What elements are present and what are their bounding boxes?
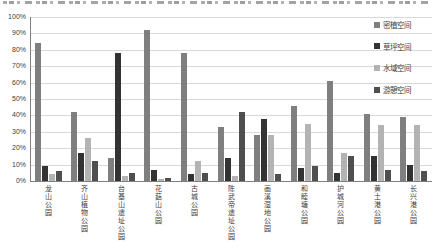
gridline: [30, 50, 432, 51]
legend-item: 游憩空间: [374, 84, 411, 95]
bar-草坪空间-和睦塘公园: [298, 168, 304, 181]
legend-label: 草坪空间: [383, 41, 411, 52]
bar-水域空间-龙山公园: [49, 174, 55, 181]
bar-水域空间-陈武帝遗址公园: [232, 176, 238, 181]
bar-游憩空间-齐山植物公园: [92, 161, 98, 181]
bar-水域空间-护城河公园: [341, 153, 347, 181]
legend-label: 密植空间: [383, 19, 411, 30]
gridline: [30, 132, 432, 133]
legend-marker-icon: [374, 22, 380, 28]
bar-草坪空间-画溪湿地公园: [261, 119, 267, 181]
x-category-label: 长兴港公园: [410, 185, 417, 225]
bar-chart: 100%90%80%70%60%50%40%30%20%10%0%龙山公园齐山植…: [0, 0, 434, 248]
x-category-label: 龙山公园: [45, 185, 52, 217]
bar-草坪空间-古城公园: [188, 174, 194, 181]
y-tick-label: 60%: [0, 79, 26, 87]
y-tick-label: 20%: [0, 144, 26, 152]
legend-label: 水域空间: [383, 62, 411, 73]
bar-草坪空间-台基山遗址公园: [115, 53, 121, 181]
gridline: [30, 17, 432, 18]
bar-游憩空间-黄土港公园: [385, 170, 391, 181]
y-tick-label: 80%: [0, 46, 26, 54]
bar-游憩空间-陈武帝遗址公园: [239, 112, 245, 181]
gridline: [30, 33, 432, 34]
bar-草坪空间-龙山公园: [42, 166, 48, 181]
y-tick-label: 50%: [0, 95, 26, 103]
x-category-label: 古城公园: [191, 185, 198, 217]
x-category-label: 画溪湿地公园: [264, 185, 271, 233]
bar-游憩空间-和睦塘公园: [312, 166, 318, 181]
bar-密植空间-龙山公园: [35, 43, 41, 181]
y-tick-label: 100%: [0, 13, 26, 21]
bar-游憩空间-古城公园: [202, 173, 208, 181]
bar-水域空间-和睦塘公园: [305, 124, 311, 181]
bar-游憩空间-台基山遗址公园: [129, 173, 135, 181]
gridline: [30, 66, 432, 67]
bar-水域空间-台基山遗址公园: [122, 176, 128, 181]
bar-水域空间-长兴港公园: [414, 125, 420, 181]
y-tick-label: 70%: [0, 62, 26, 70]
bar-游憩空间-龙山公园: [56, 171, 62, 181]
y-tick-label: 90%: [0, 29, 26, 37]
legend-marker-icon: [374, 43, 380, 49]
legend-item: 密植空间: [374, 19, 411, 30]
bar-密植空间-古城公园: [181, 53, 187, 181]
y-tick-label: 40%: [0, 111, 26, 119]
y-tick-label: 30%: [0, 128, 26, 136]
gridline: [30, 83, 432, 84]
x-category-label: 陈武帝遗址公园: [227, 185, 234, 241]
x-category-label: 台基山遗址公园: [118, 185, 125, 241]
bar-水域空间-花菇山公园: [158, 179, 164, 181]
bar-水域空间-画溪湿地公园: [268, 135, 274, 181]
bar-密植空间-齐山植物公园: [71, 112, 77, 181]
bar-游憩空间-花菇山公园: [165, 178, 171, 181]
bar-草坪空间-护城河公园: [334, 173, 340, 181]
y-tick-label: 10%: [0, 161, 26, 169]
bar-草坪空间-花菇山公园: [151, 170, 157, 181]
bar-水域空间-黄土港公园: [378, 125, 384, 181]
x-category-label: 花菇山公园: [154, 185, 161, 225]
bar-密植空间-长兴港公园: [400, 117, 406, 181]
x-category-label: 齐山植物公园: [81, 185, 88, 233]
gridline: [30, 99, 432, 100]
legend-item: 水域空间: [374, 62, 411, 73]
chart-screenshot: 100%90%80%70%60%50%40%30%20%10%0%龙山公园齐山植…: [0, 0, 434, 248]
bar-密植空间-花菇山公园: [144, 30, 150, 181]
bar-密植空间-护城河公园: [327, 81, 333, 181]
x-axis-line: [30, 181, 432, 182]
bar-密植空间-台基山遗址公园: [108, 158, 114, 181]
bar-密植空间-陈武帝遗址公园: [218, 127, 224, 181]
bar-草坪空间-黄土港公园: [371, 156, 377, 181]
bar-密植空间-和睦塘公园: [291, 106, 297, 181]
y-tick-label: 0%: [0, 177, 26, 185]
bar-游憩空间-护城河公园: [348, 156, 354, 181]
bar-密植空间-画溪湿地公园: [254, 135, 260, 181]
gridline: [30, 115, 432, 116]
bar-水域空间-齐山植物公园: [85, 138, 91, 181]
legend-label: 游憩空间: [383, 84, 411, 95]
x-category-label: 黄土港公园: [374, 185, 381, 225]
bar-草坪空间-陈武帝遗址公园: [225, 158, 231, 181]
legend-item: 草坪空间: [374, 41, 411, 52]
bar-草坪空间-长兴港公园: [407, 165, 413, 181]
bar-游憩空间-画溪湿地公园: [275, 174, 281, 181]
x-category-label: 护城河公园: [337, 185, 344, 225]
bar-水域空间-古城公园: [195, 161, 201, 181]
x-category-label: 和睦塘公园: [300, 185, 307, 225]
legend-marker-icon: [374, 65, 380, 71]
y-axis-line: [30, 17, 31, 181]
bar-密植空间-黄土港公园: [364, 114, 370, 181]
legend-marker-icon: [374, 87, 380, 93]
bar-草坪空间-齐山植物公园: [78, 153, 84, 181]
bar-游憩空间-长兴港公园: [421, 171, 427, 181]
